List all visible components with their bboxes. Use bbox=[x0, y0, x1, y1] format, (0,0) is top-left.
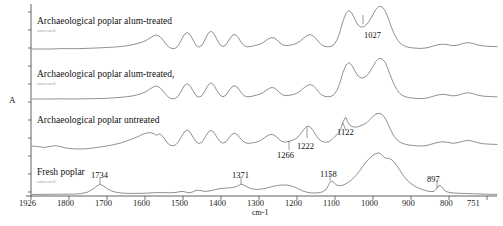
x-tick-label-1100: 1100 bbox=[323, 199, 340, 208]
x-tick-label-1800: 1800 bbox=[57, 199, 74, 208]
peak-annotation-1734: 1734 bbox=[91, 171, 108, 180]
spectra-plot-canvas bbox=[0, 0, 503, 226]
peak-annotation-897: 897 bbox=[427, 175, 440, 184]
y-axis-title: A bbox=[9, 96, 16, 105]
annotation-leader-lines bbox=[100, 15, 437, 188]
series-label-0-text: Archaeological poplar alum-treated bbox=[37, 17, 172, 27]
x-tick-label-1926: 1926 bbox=[19, 199, 36, 208]
x-tick-label-800: 800 bbox=[440, 199, 453, 208]
series-label-3: Fresh poplar untreated bbox=[37, 168, 85, 184]
series-label-1-text: Archaeological poplar alum-treated, bbox=[37, 70, 174, 80]
series-label-0-subtext: untreated bbox=[37, 29, 172, 34]
x-tick-label-1700: 1700 bbox=[95, 199, 112, 208]
x-tick-label-1300: 1300 bbox=[247, 199, 264, 208]
x-axis-title: cm-1 bbox=[252, 209, 268, 217]
series-label-3-subtext: untreated bbox=[37, 180, 85, 185]
peak-annotation-1222: 1222 bbox=[297, 142, 314, 151]
peak-annotation-1266: 1266 bbox=[277, 151, 294, 160]
peak-annotation-1027: 1027 bbox=[364, 31, 381, 40]
ftir-spectra-figure: A cm-1 1926 1800 1700 1600 1500 1400 130… bbox=[0, 0, 503, 226]
x-tick-label-1500: 1500 bbox=[171, 199, 188, 208]
series-label-2: Archaeological poplar untreated bbox=[37, 116, 159, 126]
peak-annotation-1158: 1158 bbox=[320, 170, 337, 179]
x-tick-label-1000: 1000 bbox=[361, 199, 378, 208]
series-label-2-text: Archaeological poplar untreated bbox=[37, 116, 159, 126]
y-axis-ticks bbox=[28, 12, 31, 192]
x-tick-label-1600: 1600 bbox=[133, 199, 150, 208]
x-tick-label-751: 751 bbox=[467, 199, 480, 208]
series-label-1: Archaeological poplar alum-treated, untr… bbox=[37, 70, 174, 86]
series-label-0: Archaeological poplar alum-treated untre… bbox=[37, 17, 172, 33]
peak-annotation-1371: 1371 bbox=[232, 171, 249, 180]
x-tick-label-1200: 1200 bbox=[285, 199, 302, 208]
series-label-3-text: Fresh poplar bbox=[37, 168, 85, 178]
x-tick-label-1400: 1400 bbox=[209, 199, 226, 208]
peak-annotation-1122: 1122 bbox=[337, 128, 354, 137]
x-tick-label-900: 900 bbox=[402, 199, 415, 208]
series-label-1-subtext: untreated bbox=[37, 82, 174, 87]
